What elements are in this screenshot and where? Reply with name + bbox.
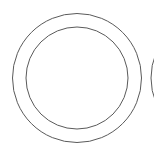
concentric-rings-drawing [0, 0, 154, 143]
inner-ring [26, 27, 128, 129]
outer-ring [13, 14, 142, 143]
adjacent-ring-partial [151, 14, 154, 143]
